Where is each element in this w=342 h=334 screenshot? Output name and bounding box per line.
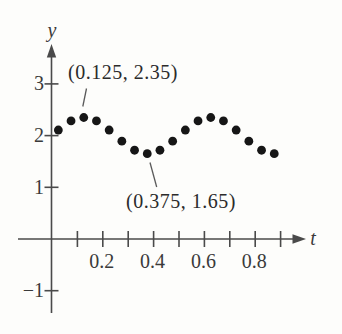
- data-point: [130, 146, 139, 155]
- data-point: [168, 137, 177, 146]
- x-axis-arrowhead-icon: [293, 234, 307, 243]
- data-point: [117, 137, 126, 146]
- x-tick-label: 0.2: [89, 250, 114, 272]
- data-point: [244, 137, 253, 146]
- data-point: [270, 149, 279, 158]
- annotation-leader-line: [150, 163, 157, 188]
- data-point: [206, 113, 215, 122]
- x-axis-label: t: [310, 227, 316, 249]
- data-point: [105, 126, 114, 135]
- y-tick-label: −1: [23, 279, 44, 301]
- data-point: [67, 117, 76, 126]
- y-tick-label: 1: [34, 176, 44, 198]
- y-tick-label: 3: [34, 72, 44, 94]
- data-point: [143, 149, 152, 158]
- y-axis-label: y: [46, 19, 57, 42]
- data-point: [181, 126, 190, 135]
- x-tick-label: 0.8: [242, 250, 267, 272]
- data-point: [156, 146, 165, 155]
- x-tick-label: 0.6: [191, 250, 216, 272]
- data-point: [232, 126, 241, 135]
- annotation-trough-label: (0.375, 1.65): [126, 190, 236, 213]
- y-axis-arrowhead-icon: [47, 44, 56, 58]
- generated-chart-layer: 0.20.40.60.8321−1: [18, 44, 306, 313]
- plot-canvas: 0.20.40.60.8321−1 y t (0.125, 2.35) (0.3…: [0, 0, 342, 334]
- data-point: [54, 126, 63, 135]
- data-point: [194, 117, 203, 126]
- scatter-plot-figure: 0.20.40.60.8321−1 y t (0.125, 2.35) (0.3…: [0, 0, 342, 334]
- data-point: [219, 117, 228, 126]
- data-point: [79, 113, 88, 122]
- annotation-peak-label: (0.125, 2.35): [68, 61, 178, 84]
- y-tick-label: 2: [34, 124, 44, 146]
- data-point: [257, 146, 266, 155]
- annotation-leader-line: [83, 89, 87, 107]
- data-point: [92, 117, 101, 126]
- x-tick-label: 0.4: [140, 250, 165, 272]
